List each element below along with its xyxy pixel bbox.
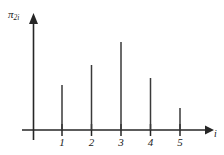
x-tick-label-3: 3 (113, 136, 129, 148)
y-axis-arrowhead (29, 13, 38, 24)
y-axis-label-subscript: 2i (14, 13, 20, 22)
x-tick-label-2: 2 (84, 136, 100, 148)
x-axis-arrowhead (205, 126, 214, 135)
x-axis-label: i (214, 128, 217, 139)
stem-plot-figure: π2i i 1 2 3 4 5 (0, 0, 224, 155)
plot-canvas (0, 0, 224, 155)
y-axis-label: π2i (8, 8, 19, 22)
x-tick-label-1: 1 (54, 136, 70, 148)
x-tick-label-5: 5 (172, 136, 188, 148)
x-tick-label-4: 4 (143, 136, 159, 148)
y-axis-label-symbol: π (8, 8, 14, 20)
